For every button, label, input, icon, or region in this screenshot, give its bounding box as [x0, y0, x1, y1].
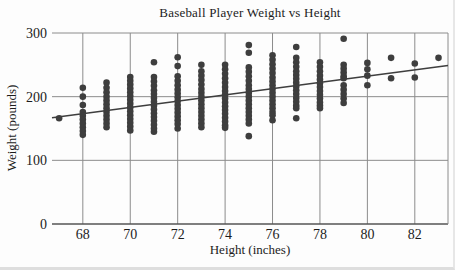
data-point — [174, 125, 181, 132]
data-point — [198, 124, 205, 131]
data-point — [317, 105, 324, 112]
data-point — [293, 105, 300, 112]
data-point — [222, 125, 229, 132]
data-point — [388, 55, 395, 62]
plot-area: 01002003006870727476788082 — [0, 0, 455, 270]
y-tick-label: 0 — [40, 217, 47, 232]
y-tick-label: 200 — [26, 90, 47, 105]
data-point — [80, 102, 87, 109]
x-tick-label: 68 — [76, 227, 90, 242]
x-tick-label: 80 — [360, 227, 374, 242]
data-point — [103, 124, 110, 131]
data-point — [174, 63, 181, 70]
data-point — [340, 100, 347, 107]
data-point — [388, 75, 395, 82]
data-point — [412, 60, 419, 67]
data-point — [412, 74, 419, 81]
data-point — [340, 35, 347, 42]
chart-figure: Baseball Player Weight vs Height Weight … — [0, 0, 455, 270]
data-point — [364, 82, 371, 89]
x-tick-label: 76 — [266, 227, 280, 242]
x-tick-label: 74 — [218, 227, 232, 242]
x-tick-label: 78 — [313, 227, 327, 242]
data-point — [246, 49, 253, 56]
x-tick-label: 82 — [408, 227, 422, 242]
data-point — [293, 115, 300, 122]
data-point — [151, 128, 158, 135]
data-point — [246, 133, 253, 140]
data-point — [435, 55, 442, 62]
y-tick-label: 100 — [26, 153, 47, 168]
x-axis-label: Height (inches) — [52, 242, 448, 258]
x-tick-label: 70 — [123, 227, 137, 242]
data-point — [364, 60, 371, 67]
data-point — [269, 117, 276, 124]
data-point — [198, 62, 205, 69]
data-point — [80, 93, 87, 100]
data-point — [174, 54, 181, 61]
data-point — [80, 132, 87, 139]
data-point — [80, 84, 87, 91]
y-tick-label: 300 — [26, 26, 47, 41]
data-point — [293, 44, 300, 51]
data-point — [151, 59, 158, 66]
data-point — [246, 42, 253, 49]
data-point — [364, 66, 371, 73]
data-point — [246, 120, 253, 127]
data-point — [127, 127, 134, 134]
x-tick-label: 72 — [171, 227, 185, 242]
